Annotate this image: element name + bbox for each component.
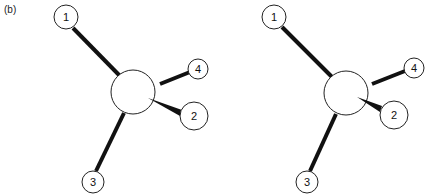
atom-2-label: 2 [191,110,197,122]
bond-4 [372,71,405,84]
atom-2-label: 2 [391,109,397,121]
bond-4 [160,72,190,84]
atom-3-label: 3 [304,176,310,188]
bond-1 [73,28,120,76]
bond-1 [282,27,332,77]
bond-3 [96,113,124,171]
atom-3-label: 3 [90,176,96,188]
center-atom [111,70,155,114]
atom-1-label: 1 [63,11,69,23]
bond-3 [310,114,336,171]
left-molecule: 1 4 2 3 [54,5,208,193]
center-atom [324,71,368,115]
atom-1-label: 1 [271,11,277,23]
right-molecule: 1 4 2 3 [262,5,424,193]
bond-2-wedge [148,98,182,116]
molecule-diagrams: 1 4 2 3 1 4 2 3 [0,0,428,194]
atom-4-label: 4 [411,62,417,74]
atom-4-label: 4 [195,63,201,75]
